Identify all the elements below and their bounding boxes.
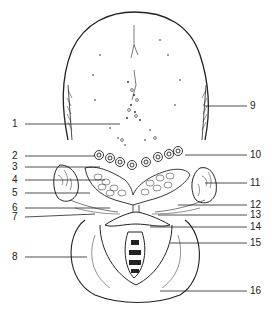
label-3: 3: [12, 162, 18, 172]
label-15: 15: [250, 238, 261, 248]
label-16: 16: [250, 286, 261, 296]
palatine-tonsil-right: [192, 168, 216, 203]
label-14: 14: [250, 222, 261, 232]
label-11: 11: [250, 178, 260, 188]
label-7: 7: [12, 212, 18, 222]
label-4: 4: [12, 175, 18, 185]
label-1: 1: [12, 119, 18, 129]
label-8: 8: [12, 252, 18, 262]
label-2: 2: [12, 151, 18, 161]
label-10: 10: [250, 150, 261, 160]
tongue-larynx-diagram: [0, 0, 272, 309]
tongue-outline: [63, 12, 208, 140]
lingual-tonsil: [85, 167, 190, 205]
vallate-papillae: [95, 147, 183, 170]
label-13: 13: [250, 210, 261, 220]
label-5: 5: [12, 188, 18, 198]
palatine-tonsil-left: [54, 165, 79, 201]
label-9: 9: [250, 101, 256, 111]
